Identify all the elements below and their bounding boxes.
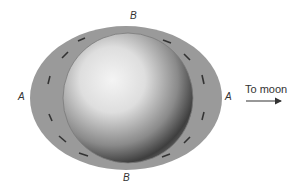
earth-sphere (63, 33, 193, 163)
label-a-right: A (225, 92, 232, 102)
label-a-left: A (18, 92, 25, 102)
to-moon-label: To moon (245, 84, 287, 95)
label-b-bottom: B (123, 173, 130, 183)
tidal-diagram (0, 0, 302, 192)
label-b-top: B (130, 11, 137, 21)
